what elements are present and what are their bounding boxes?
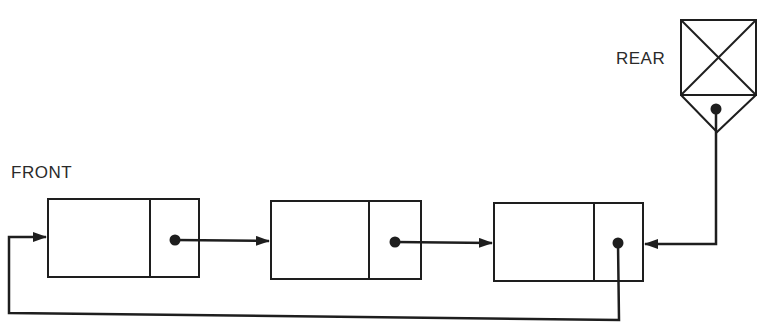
list-node-1 (48, 199, 199, 277)
list-node-3 (494, 203, 643, 281)
list-node-2 (271, 201, 421, 279)
linked-list-diagram (0, 0, 767, 332)
arrow-rear-to-node3 (645, 109, 716, 244)
arrow-node1-to-node2 (175, 240, 269, 241)
arrow-node2-to-node3 (395, 242, 492, 243)
rear-pointer-box (681, 20, 756, 132)
